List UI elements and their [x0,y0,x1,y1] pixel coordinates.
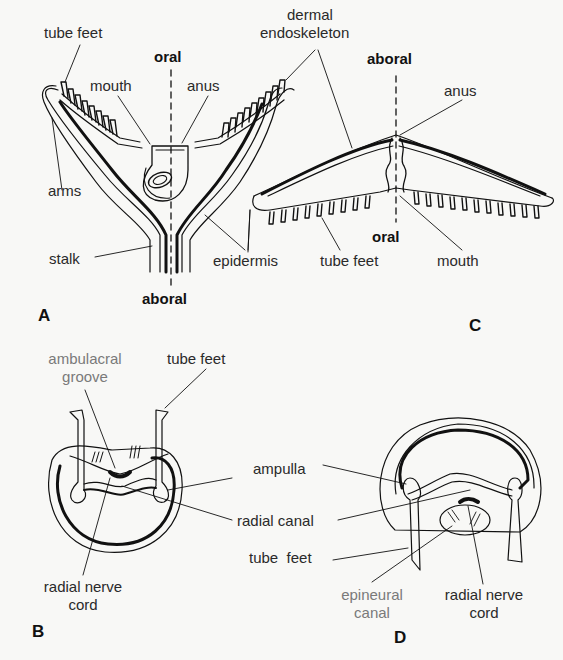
panel-a-drawing [43,45,295,285]
label-ampulla: ampulla [253,460,306,477]
label-b-ambulacral: ambulacral [38,350,132,367]
label-a-aboral: aboral [142,290,187,307]
panel-c-drawing [248,50,554,252]
label-b-radial-nerve: radial nerve [32,578,134,595]
label-c-tube-feet: tube feet [320,252,378,269]
label-d-epineural: epineural [332,586,412,603]
panel-label-c: C [469,316,481,336]
label-c-aboral: aboral [367,50,412,67]
label-b-tube-feet: tube feet [167,350,225,367]
label-c-dermal: dermal [287,6,333,23]
label-c-anus: anus [444,82,477,99]
label-c-mouth: mouth [437,252,479,269]
label-d-radial-nerve: radial nerve [432,586,536,603]
label-a-oral: oral [154,48,182,65]
label-a-arms: arms [48,182,81,199]
label-a-stalk: stalk [49,250,80,267]
label-b-groove: groove [38,368,132,385]
echinoderm-anatomy-figure: tube feet oral mouth anus arms stalk epi… [0,0,563,660]
panel-label-b: B [32,622,44,642]
label-a-mouth: mouth [90,77,132,94]
label-c-oral: oral [372,228,400,245]
label-a-anus: anus [187,77,220,94]
panel-b-drawing [49,369,232,575]
panel-d-drawing [323,418,541,584]
label-a-tube-feet: tube feet [44,24,102,41]
label-d-canal: canal [332,604,412,621]
label-radial-canal: radial canal [237,512,314,529]
panel-label-a: A [38,306,50,326]
panel-label-d: D [394,628,406,648]
label-d-cord: cord [432,604,536,621]
label-b-cord: cord [32,596,134,613]
label-tube-feet: tube feet [249,549,312,566]
label-epidermis: epidermis [213,252,278,269]
label-c-endoskeleton: endoskeleton [260,24,349,41]
